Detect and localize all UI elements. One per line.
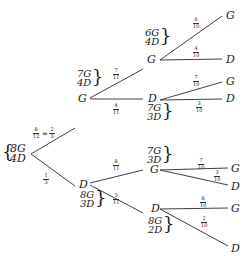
prob-4-11: 411	[113, 103, 119, 115]
prob-4-10: 410	[193, 46, 199, 58]
prob-7-10-a: 710	[193, 75, 199, 87]
right-brace-icon: }	[95, 189, 106, 207]
right-brace-icon: }	[92, 68, 103, 86]
node-G: G	[78, 93, 87, 104]
prob-8-10: 810	[200, 196, 206, 208]
edge-root-D	[31, 154, 75, 186]
leaf-GGD: D	[226, 54, 235, 65]
prob-8-11: 811	[113, 159, 119, 171]
prob-3-11: 311	[113, 193, 119, 205]
leaf-DGD: D	[231, 181, 240, 192]
right-brace-icon: }	[162, 102, 173, 120]
prob-8-12: 812	[33, 127, 39, 139]
root-set-d: 4D	[10, 154, 26, 164]
right-brace-icon: }	[160, 27, 171, 45]
right-brace-icon: }	[162, 145, 173, 163]
edge-GG-D	[160, 59, 222, 60]
edge-D-G	[90, 170, 143, 183]
prob-3-10-a: 310	[196, 101, 202, 113]
node-DG: G	[150, 164, 159, 175]
prob-3-10-b: 310	[214, 170, 220, 182]
leaf-DDG: G	[231, 203, 240, 214]
prob-6-10: 610	[193, 17, 199, 29]
edge-DD-G	[160, 208, 228, 209]
right-brace-icon: }	[163, 215, 174, 233]
prob-2-3: 23	[49, 127, 55, 139]
prob-1-3: 13	[43, 173, 49, 185]
leaf-GGG: G	[226, 10, 235, 21]
leaf-DDD: D	[231, 243, 240, 254]
leaf-GDG: G	[226, 76, 235, 87]
leaf-DGG: G	[231, 163, 240, 174]
leaf-GDD: D	[226, 93, 235, 104]
equals-sign: =	[42, 131, 48, 137]
node-DD: D	[151, 203, 160, 214]
prob-7-10-b: 710	[198, 158, 204, 170]
edge-GD-G	[160, 82, 222, 100]
prob-7-11: 711	[113, 68, 119, 80]
prob-2-10: 210	[201, 216, 207, 228]
node-GG: G	[147, 54, 156, 65]
